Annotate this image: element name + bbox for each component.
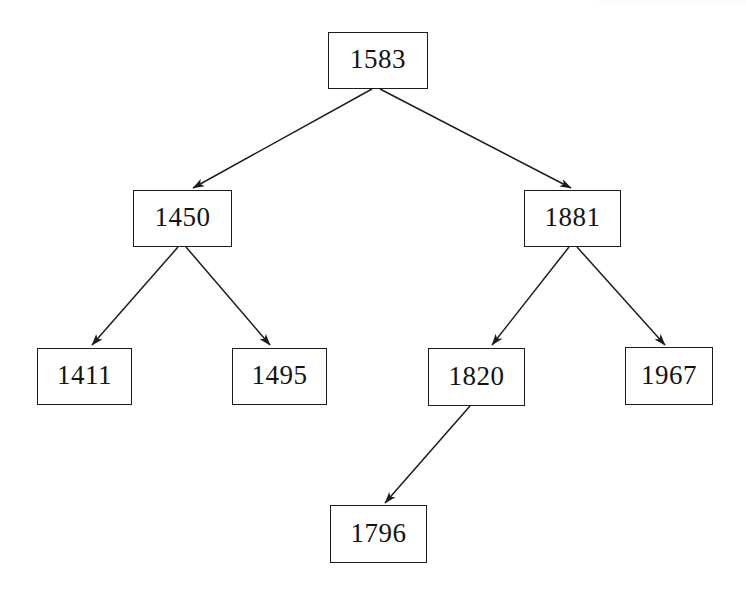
tree-node-root[interactable]: 1583	[328, 32, 428, 89]
tree-edge	[92, 247, 178, 345]
tree-edge	[193, 89, 372, 188]
tree-node-label: 1881	[545, 204, 601, 233]
edges-group	[92, 89, 665, 503]
tree-edge	[385, 406, 470, 503]
tree-node-label: 1796	[351, 520, 407, 549]
tree-node-leaf[interactable]: 1411	[37, 348, 132, 405]
tree-node-label: 1411	[57, 362, 112, 391]
tree-node-right-child[interactable]: 1881	[524, 190, 621, 247]
tree-node-label: 1450	[155, 204, 211, 233]
tree-edge	[380, 89, 571, 188]
tree-node-label: 1820	[449, 363, 505, 392]
tree-node-label: 1583	[350, 46, 406, 75]
scan-artifact	[598, 0, 746, 5]
tree-node-leaf[interactable]: 1796	[330, 505, 427, 563]
tree-node-left-child[interactable]: 1450	[133, 190, 232, 247]
tree-node-internal[interactable]: 1820	[428, 348, 525, 406]
tree-node-label: 1967	[641, 362, 697, 391]
tree-edge	[577, 247, 665, 345]
tree-node-leaf[interactable]: 1495	[232, 348, 327, 405]
tree-node-label: 1495	[252, 362, 308, 391]
binary-tree-diagram: 1583 1450 1881 1411 1495 1820 1967 1796	[0, 0, 746, 594]
tree-edge	[186, 247, 270, 345]
tree-edge	[492, 247, 569, 345]
tree-node-leaf[interactable]: 1967	[625, 347, 713, 405]
